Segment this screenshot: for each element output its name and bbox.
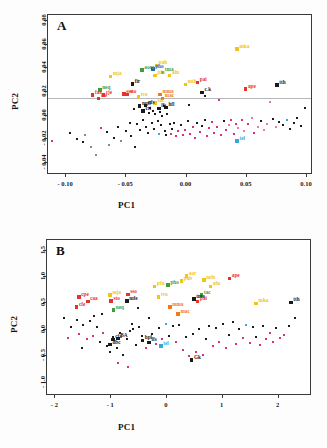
scatter-point — [90, 146, 92, 148]
scatter-point — [204, 95, 206, 97]
scatter-point — [138, 326, 140, 328]
scatter-point — [265, 338, 267, 340]
scatter-point — [252, 326, 254, 328]
scatter-point — [153, 128, 155, 130]
scatter-point — [269, 101, 271, 103]
scatter-point — [212, 345, 214, 347]
x-tick-a — [306, 174, 307, 177]
point-label: lfs — [161, 103, 166, 108]
scatter-point — [86, 338, 88, 340]
scatter-point — [275, 327, 277, 329]
scatter-point — [251, 117, 253, 119]
scatter-point — [102, 332, 104, 334]
scatter-point — [259, 344, 261, 346]
scatter-point — [69, 132, 71, 134]
point-label: tvo — [141, 92, 148, 97]
scatter-point — [180, 124, 182, 126]
scatter-point — [159, 111, 161, 113]
panel-letter-a: A — [57, 18, 66, 34]
scatter-point — [70, 326, 72, 328]
scatter-point-labeled — [190, 358, 194, 362]
scatter-point-labeled — [235, 47, 239, 51]
point-label: sso — [130, 289, 137, 294]
scatter-point — [269, 332, 271, 334]
scatter-point-labeled — [168, 74, 172, 78]
point-label: Gk — [194, 355, 201, 360]
scatter-point-labeled — [75, 305, 79, 309]
x-tick-label-a: - 0.05 — [118, 180, 133, 187]
scatter-point-labeled — [77, 295, 81, 299]
x-tick-b — [222, 395, 223, 398]
x-tick-a — [246, 174, 247, 177]
x-tick-label-a: - 0.10 — [57, 180, 72, 187]
scatter-point-labeled — [137, 95, 141, 99]
y-tick-label-b: 0.5 — [39, 298, 46, 306]
scatter-point — [169, 123, 171, 125]
point-label: mma — [172, 302, 183, 307]
point-label: tth — [293, 297, 299, 302]
scatter-point — [187, 120, 189, 122]
scatter-point — [51, 140, 53, 142]
x-tick-label-b: 0 — [164, 401, 167, 408]
scatter-point — [204, 119, 206, 121]
scatter-point — [175, 341, 177, 343]
scatter-point — [242, 337, 244, 339]
scatter-point — [192, 126, 194, 128]
scatter-point — [199, 131, 201, 133]
scatter-point — [129, 330, 131, 332]
scatter-point — [164, 130, 166, 132]
scatter-point — [232, 321, 234, 323]
x-tick-label-a: 0.05 — [240, 180, 251, 187]
scatter-point — [238, 328, 240, 330]
scatter-point — [279, 337, 281, 339]
x-axis-title-b: PC1 — [118, 422, 135, 432]
scatter-point — [78, 333, 80, 335]
point-label: pfu — [158, 70, 166, 75]
scatter-point — [194, 137, 196, 139]
y-tick-label-b: - 0.5 — [39, 349, 46, 361]
scatter-point — [67, 337, 69, 339]
scatter-point — [182, 349, 184, 351]
scatter-point — [260, 120, 262, 122]
x-tick-b — [110, 395, 111, 398]
scatter-point — [178, 324, 180, 326]
scatter-point-labeled — [97, 97, 101, 101]
scatter-point — [263, 129, 265, 131]
point-label: pai — [200, 77, 207, 82]
scatter-point-labeled — [108, 343, 112, 347]
scatter-point — [141, 335, 143, 337]
scatter-point — [132, 328, 134, 330]
scatter-point — [216, 126, 218, 128]
x-tick-label-b: - 1 — [107, 401, 114, 408]
scatter-point — [283, 334, 285, 336]
scatter-point — [235, 123, 237, 125]
scatter-point — [266, 123, 268, 125]
scatter-point-labeled — [153, 285, 157, 289]
scatter-point-labeled — [202, 278, 206, 282]
scatter-point-labeled — [235, 139, 239, 143]
x-tick-a — [65, 174, 66, 177]
scatter-point — [116, 347, 118, 349]
scatter-point — [96, 326, 98, 328]
scatter-point-labeled — [196, 81, 200, 85]
scatter-point — [131, 323, 133, 325]
scatter-point — [84, 134, 86, 136]
scatter-point — [235, 343, 237, 345]
scatter-point — [92, 335, 94, 337]
y-tick-label-a: 0.02 — [40, 85, 47, 96]
scatter-point — [147, 132, 149, 134]
scatter-point — [262, 325, 264, 327]
y-tick-label-a: 0.08 — [40, 14, 47, 25]
scatter-point — [122, 354, 124, 356]
scatter-point-labeled — [157, 107, 161, 111]
plot-area-b: aorpabmthapephopfuafussomjatactvotmapais… — [46, 239, 311, 395]
scatter-point — [139, 129, 141, 131]
scatter-point — [188, 104, 190, 106]
scatter-point — [158, 327, 160, 329]
scatter-point — [130, 135, 132, 137]
x-tick-b — [54, 395, 55, 398]
point-label: pfu — [157, 281, 165, 286]
point-label: mfe — [129, 296, 137, 301]
scatter-point — [278, 121, 280, 123]
scatter-point — [168, 335, 170, 337]
